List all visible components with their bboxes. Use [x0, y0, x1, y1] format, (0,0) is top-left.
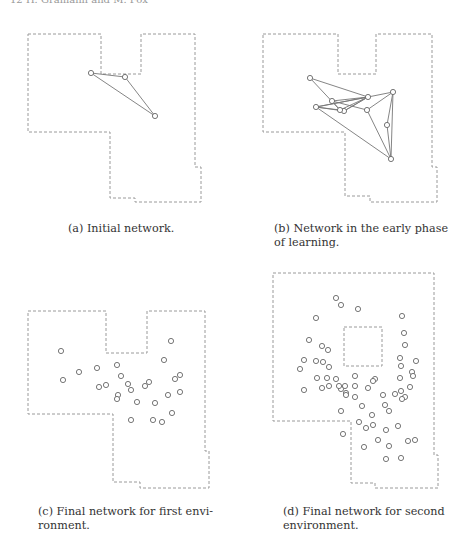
network-node [395, 423, 400, 428]
network-node [370, 422, 375, 427]
network-plot-d [0, 0, 451, 500]
network-node [370, 378, 375, 383]
network-node [382, 402, 387, 407]
network-node [380, 392, 385, 397]
network-node [338, 302, 343, 307]
network-node [407, 384, 412, 389]
network-node [398, 455, 403, 460]
network-node [301, 357, 306, 362]
network-node [297, 366, 302, 371]
network-node [319, 385, 324, 390]
network-node [398, 363, 403, 368]
network-node [402, 342, 407, 347]
network-node [340, 431, 345, 436]
network-node [313, 358, 318, 363]
network-node [405, 438, 410, 443]
network-node [356, 419, 361, 424]
network-node [359, 403, 364, 408]
network-node [352, 394, 357, 399]
network-node [306, 337, 311, 342]
network-node [392, 391, 397, 396]
network-node [324, 375, 329, 380]
figure-panel-d [0, 0, 451, 500]
network-node [355, 306, 360, 311]
network-node [369, 412, 374, 417]
network-node [343, 392, 348, 397]
network-node [386, 443, 391, 448]
caption-d-line1: (d) Final network for second [283, 505, 445, 519]
network-node [401, 330, 406, 335]
network-node [352, 373, 357, 378]
network-node [342, 383, 347, 388]
network-node [383, 456, 388, 461]
network-node [319, 343, 324, 348]
network-node [399, 396, 404, 401]
network-node [375, 437, 380, 442]
network-node [363, 425, 368, 430]
caption-c: (c) Final network for first envi- ronmen… [38, 505, 213, 533]
network-node [333, 376, 338, 381]
network-node [398, 388, 403, 393]
inner-obstacle [344, 327, 382, 366]
network-node [386, 408, 391, 413]
network-node [325, 347, 330, 352]
network-node [383, 427, 388, 432]
network-node [336, 383, 341, 388]
network-node [326, 364, 331, 369]
caption-d-line2: environment. [283, 519, 445, 533]
network-node [413, 358, 418, 363]
caption-c-line2: ronment. [38, 519, 213, 533]
network-node [338, 408, 343, 413]
network-node [352, 383, 357, 388]
network-node [326, 383, 331, 388]
environment-boundary-d [273, 273, 438, 488]
network-node [410, 373, 415, 378]
network-node [313, 315, 318, 320]
caption-c-line1: (c) Final network for first envi- [38, 505, 213, 519]
network-node [399, 313, 404, 318]
network-node [361, 444, 366, 449]
network-node [365, 385, 370, 390]
network-node [397, 355, 402, 360]
network-node [333, 295, 338, 300]
network-node [397, 375, 402, 380]
network-node [301, 387, 306, 392]
network-node [314, 375, 319, 380]
network-node [320, 359, 325, 364]
caption-d: (d) Final network for second environment… [283, 505, 445, 533]
network-node [412, 437, 417, 442]
